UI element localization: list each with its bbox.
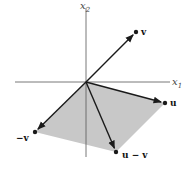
vector-u-label: u — [170, 98, 177, 108]
vector-neg-v-endpoint — [33, 130, 37, 134]
vector-u-endpoint — [163, 101, 167, 105]
vector-v-endpoint — [134, 30, 138, 34]
vector-u-minus-v-label: u − v — [122, 150, 148, 160]
vector-v-arrow — [86, 35, 133, 82]
vector-diagram: x1 x2 vu−vu − v — [0, 0, 193, 169]
x1-axis-label: x1 — [172, 76, 182, 90]
vector-u-minus-v-endpoint — [114, 150, 118, 154]
vector-v-label: v — [140, 27, 147, 37]
vector-neg-v-label: −v — [16, 133, 30, 143]
x2-axis-label: x2 — [80, 0, 91, 14]
parallelogram-region — [35, 82, 165, 152]
